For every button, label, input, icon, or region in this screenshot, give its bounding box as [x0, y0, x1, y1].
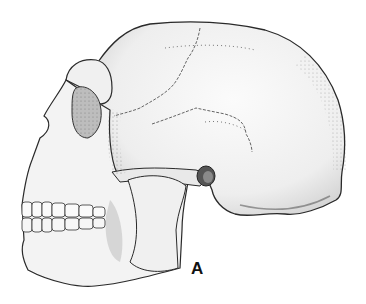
mandible-ramus [128, 176, 186, 272]
skull-illustration: A [0, 0, 366, 304]
skull-drawing [0, 0, 366, 304]
figure-label: A [191, 259, 203, 279]
